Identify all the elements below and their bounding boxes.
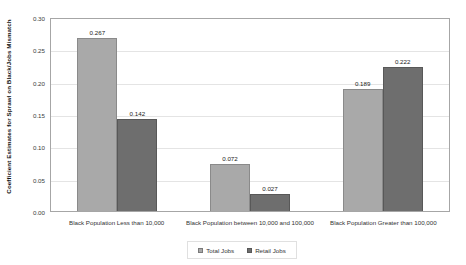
bar-group: 0.1890.222 bbox=[316, 19, 449, 211]
bar-chart: Coefficient Estimates for Sprawl on Blac… bbox=[0, 0, 466, 265]
y-axis-title: Coefficient Estimates for Sprawl on Blac… bbox=[0, 0, 16, 212]
chart-legend: Total JobsRetail Jobs bbox=[187, 241, 297, 259]
bar-slot: 0.267 bbox=[77, 19, 117, 211]
bar-group: 0.2670.142 bbox=[51, 19, 184, 211]
legend-item[interactable]: Total Jobs bbox=[198, 247, 234, 254]
legend-swatch-icon bbox=[247, 248, 252, 253]
bar-slot: 0.027 bbox=[250, 19, 290, 211]
bar-value-label: 0.142 bbox=[130, 110, 145, 117]
bar-value-label: 0.222 bbox=[395, 58, 410, 65]
bar-group: 0.0720.027 bbox=[184, 19, 317, 211]
y-axis-tick-label: 0.00 bbox=[33, 209, 45, 216]
x-axis-category-labels: Black Population Less than 10,000Black P… bbox=[50, 214, 450, 230]
x-axis-category-label: Black Population Greater than 100,000 bbox=[317, 214, 450, 230]
y-axis-tick-labels: 0.300.250.200.150.100.050.00 bbox=[18, 0, 48, 212]
bar-slot: 0.072 bbox=[210, 19, 250, 211]
bar-value-label: 0.189 bbox=[355, 80, 370, 87]
legend-label: Retail Jobs bbox=[255, 247, 286, 254]
bar-value-label: 0.072 bbox=[222, 155, 237, 162]
legend-label: Total Jobs bbox=[206, 247, 234, 254]
y-axis-tick-label: 0.05 bbox=[33, 176, 45, 183]
y-axis-tick-label: 0.20 bbox=[33, 79, 45, 86]
bar-slot: 0.189 bbox=[343, 19, 383, 211]
x-axis-category-label: Black Population between 10,000 and 100,… bbox=[183, 214, 316, 230]
y-axis-tick-label: 0.15 bbox=[33, 112, 45, 119]
bar-total-jobs[interactable] bbox=[77, 38, 117, 211]
y-axis-title-text: Coefficient Estimates for Sprawl on Blac… bbox=[5, 19, 12, 193]
legend-swatch-icon bbox=[198, 248, 203, 253]
legend-item[interactable]: Retail Jobs bbox=[247, 247, 286, 254]
plot-area: 0.2670.1420.0720.0270.1890.222 bbox=[50, 18, 450, 212]
y-axis-tick-label: 0.10 bbox=[33, 144, 45, 151]
bar-value-label: 0.027 bbox=[262, 185, 277, 192]
bar-total-jobs[interactable] bbox=[343, 89, 383, 211]
bar-slot: 0.142 bbox=[117, 19, 157, 211]
x-axis-category-label: Black Population Less than 10,000 bbox=[50, 214, 183, 230]
bar-value-label: 0.267 bbox=[90, 29, 105, 36]
bar-retail-jobs[interactable] bbox=[250, 194, 290, 211]
bar-total-jobs[interactable] bbox=[210, 164, 250, 211]
bar-retail-jobs[interactable] bbox=[383, 67, 423, 211]
y-axis-tick-label: 0.30 bbox=[33, 15, 45, 22]
bar-retail-jobs[interactable] bbox=[117, 119, 157, 211]
bar-groups: 0.2670.1420.0720.0270.1890.222 bbox=[51, 19, 449, 211]
y-axis-tick-label: 0.25 bbox=[33, 47, 45, 54]
bar-slot: 0.222 bbox=[383, 19, 423, 211]
